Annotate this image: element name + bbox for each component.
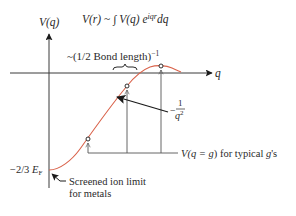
bond-length-label: ~(1/2 Bond length)−1 (67, 49, 159, 63)
screened-ion-pointer (52, 174, 66, 181)
y-axis-label: V(q) (39, 16, 60, 29)
screened-ion-line1: Screened ion limit (69, 176, 146, 187)
pseudopotential-diagram: V(r) ~ ∫ V(q) eiqrdq V(q) q ~(1/2 Bond l… (0, 0, 296, 216)
screened-ion-line2: for metals (69, 188, 111, 199)
curve-point-2 (125, 84, 129, 88)
slope-label-denominator: q2 (175, 109, 184, 121)
fourier-formula: V(r) ~ ∫ V(q) eiqrdq (82, 12, 169, 26)
fermi-energy-label: −2/3 EF (10, 164, 42, 177)
slope-label-numerator: 1 (178, 98, 183, 108)
asymptote-arrow (117, 97, 168, 112)
x-axis-label: q (215, 67, 221, 80)
bond-length-brace (113, 64, 137, 70)
typical-g-label: V(q = g) for typical g's (181, 148, 277, 160)
curve-point-1 (86, 137, 90, 141)
curve-point-3 (159, 64, 163, 68)
